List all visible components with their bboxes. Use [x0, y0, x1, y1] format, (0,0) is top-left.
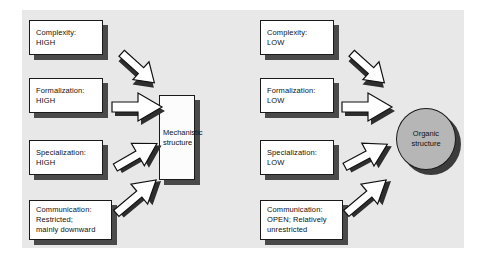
- concept-box-label: Complexity: LOW: [267, 28, 329, 48]
- arrow-communication-open-icon: [334, 166, 400, 226]
- concept-box-label: Specialization: HIGH: [36, 148, 98, 168]
- concept-box-label: Complexity: HIGH: [36, 28, 98, 48]
- arrow-formalization-high-icon: [110, 82, 166, 126]
- outcome-label: Organic structure: [396, 129, 456, 149]
- concept-box-complexity-low[interactable]: Complexity: LOW: [260, 20, 334, 55]
- concept-box-complexity-high[interactable]: Complexity: HIGH: [29, 20, 103, 55]
- concept-box-specialization-low[interactable]: Specialization: LOW: [260, 140, 334, 175]
- arrow-formalization-low-icon: [340, 82, 396, 126]
- concept-box-communication-restricted[interactable]: Communication: Restricted; mainly downwa…: [29, 200, 112, 240]
- concept-box-label: Communication: Restricted; mainly downwa…: [36, 205, 107, 235]
- concept-box-formalization-high[interactable]: Formalization: HIGH: [29, 78, 103, 113]
- concept-box-formalization-low[interactable]: Formalization: LOW: [260, 78, 334, 113]
- diagram-root: Complexity: HIGH Formalization: HIGH Spe…: [0, 0, 489, 272]
- concept-box-label: Formalization: HIGH: [36, 86, 98, 106]
- outcome-organic-structure[interactable]: Organic structure: [396, 108, 456, 170]
- arrow-communication-restricted-icon: [104, 166, 170, 226]
- concept-box-label: Specialization: LOW: [267, 148, 329, 168]
- concept-box-communication-open[interactable]: Communication: OPEN; Relatively unrestri…: [260, 200, 343, 240]
- concept-box-specialization-high[interactable]: Specialization: HIGH: [29, 140, 103, 175]
- concept-box-label: Communication: OPEN; Relatively unrestri…: [267, 205, 338, 235]
- concept-box-label: Formalization: LOW: [267, 86, 329, 106]
